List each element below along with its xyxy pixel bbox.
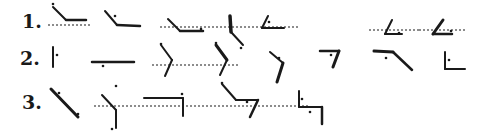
dot-mark	[450, 30, 453, 33]
dot-mark	[278, 57, 281, 60]
pen-stroke	[216, 45, 227, 60]
pen-stroke	[53, 7, 66, 20]
pen-stroke	[165, 60, 172, 76]
dot-mark	[309, 111, 312, 114]
pen-stroke	[277, 63, 283, 82]
dot-mark	[58, 92, 61, 95]
dot-mark	[115, 85, 118, 88]
figure-3-2	[94, 85, 310, 131]
pen-stroke	[250, 100, 258, 117]
dot-mark	[330, 54, 333, 57]
pen-stroke	[220, 60, 227, 75]
pen-stroke	[270, 52, 283, 63]
pen-stroke	[433, 20, 443, 34]
dot-mark	[398, 32, 401, 35]
pen-stroke	[230, 16, 231, 32]
figure-3-3	[144, 93, 183, 116]
pen-stroke	[262, 16, 268, 28]
pen-stroke	[117, 25, 140, 26]
dot-mark	[301, 98, 304, 101]
figure-3-5	[299, 91, 322, 124]
pen-stroke	[105, 11, 117, 25]
pen-stroke	[168, 19, 180, 31]
pen-stroke	[374, 51, 393, 52]
pen-stroke	[231, 32, 243, 45]
figure-3-4	[221, 82, 258, 117]
dot-mark	[102, 65, 105, 68]
dot-mark	[200, 28, 203, 31]
dot-mark	[56, 54, 59, 57]
pen-stroke	[393, 52, 412, 70]
dot-mark	[268, 21, 271, 24]
figure-2-6	[320, 51, 339, 67]
figure-3-1	[51, 89, 79, 117]
figure-1-7	[419, 20, 465, 34]
figure-2-5	[270, 52, 283, 82]
figure-2-7	[374, 51, 412, 70]
row-2	[53, 42, 465, 82]
dot-mark	[448, 59, 451, 62]
pen-stroke	[222, 84, 236, 100]
figure-1-5	[262, 16, 284, 28]
figure-2-8	[445, 52, 465, 69]
row-label-2: 2.	[20, 49, 40, 68]
row-1	[48, 3, 465, 50]
pen-stroke	[333, 51, 339, 67]
row-label-1: 1.	[22, 12, 42, 31]
dot-mark	[114, 15, 117, 18]
figure-2-4	[215, 42, 227, 75]
pen-stroke	[161, 45, 172, 60]
pen-stroke	[385, 20, 392, 34]
figure-1-6	[369, 20, 419, 34]
stroke-diagram	[0, 0, 485, 139]
dot-mark	[215, 42, 218, 45]
pen-stroke	[51, 89, 78, 117]
row-label-3: 3.	[22, 93, 42, 112]
figure-1-2	[105, 11, 140, 26]
figure-1-1	[48, 3, 92, 25]
figure-1-3	[160, 19, 240, 31]
dot-mark	[181, 93, 184, 96]
dot-mark	[52, 3, 55, 6]
dot-mark	[246, 101, 249, 104]
row-3	[51, 82, 322, 131]
dot-mark	[385, 57, 388, 60]
dot-mark	[77, 113, 80, 116]
dot-mark	[221, 82, 224, 85]
dot-mark	[111, 128, 114, 131]
pen-stroke	[102, 95, 116, 110]
dot-mark	[240, 47, 243, 50]
dot-mark	[160, 43, 163, 46]
figure-2-2	[92, 62, 134, 67]
figure-2-1	[53, 47, 58, 67]
